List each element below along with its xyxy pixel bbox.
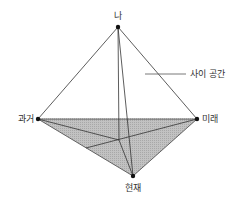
label-left: 과거 xyxy=(18,114,34,124)
vertex-left-dot xyxy=(36,117,40,121)
label-right: 미래 xyxy=(202,114,218,124)
edge-apex-past xyxy=(38,27,118,119)
base-face xyxy=(38,119,197,176)
tetrahedron-diagram: 나 과거 미래 현재 사이 공간 xyxy=(0,0,238,208)
label-top: 나 xyxy=(114,11,122,21)
edge-apex-future xyxy=(118,27,197,119)
label-callout: 사이 공간 xyxy=(190,69,225,79)
vertex-right-dot xyxy=(195,117,199,121)
vertex-top-dot xyxy=(116,25,120,29)
vertex-bottom-dot xyxy=(131,174,135,178)
label-bottom: 현재 xyxy=(125,183,141,193)
